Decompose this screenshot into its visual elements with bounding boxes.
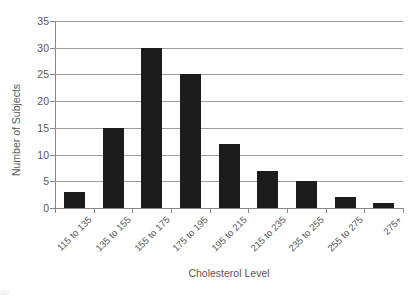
bar bbox=[141, 48, 162, 208]
x-tick bbox=[364, 209, 365, 213]
bar bbox=[180, 74, 201, 208]
bar bbox=[64, 192, 85, 208]
x-axis-line bbox=[55, 208, 404, 209]
x-tick bbox=[171, 209, 172, 213]
y-tick bbox=[50, 21, 55, 22]
y-axis-line bbox=[55, 21, 56, 208]
bar bbox=[103, 128, 124, 208]
y-tick-label: 20 bbox=[19, 95, 49, 107]
y-tick-label: 5 bbox=[19, 175, 49, 187]
y-tick-label: 25 bbox=[19, 68, 49, 80]
x-tick bbox=[132, 209, 133, 213]
y-tick bbox=[50, 101, 55, 102]
bar bbox=[373, 203, 394, 208]
bar bbox=[335, 197, 356, 208]
y-tick-label: 0 bbox=[19, 202, 49, 214]
x-tick bbox=[403, 209, 404, 213]
gridline bbox=[55, 21, 403, 22]
x-tick bbox=[55, 209, 56, 213]
x-tick bbox=[94, 209, 95, 213]
x-tick bbox=[326, 209, 327, 213]
gridline bbox=[55, 101, 403, 102]
y-tick bbox=[50, 74, 55, 75]
x-tick bbox=[210, 209, 211, 213]
gridline bbox=[55, 74, 403, 75]
bar bbox=[257, 171, 278, 208]
bar bbox=[296, 181, 317, 208]
plot-area: 05101520253035 bbox=[55, 21, 403, 208]
y-tick-label: 30 bbox=[19, 42, 49, 54]
bar bbox=[219, 144, 240, 208]
y-tick bbox=[50, 181, 55, 182]
y-tick-label: 35 bbox=[19, 15, 49, 27]
y-tick-label: 15 bbox=[19, 122, 49, 134]
x-tick bbox=[287, 209, 288, 213]
bar-chart: Number of Subjects 05101520253035 Choles… bbox=[0, 0, 416, 296]
y-tick-label: 10 bbox=[19, 149, 49, 161]
gridline bbox=[55, 48, 403, 49]
scan-artifact bbox=[0, 290, 9, 295]
y-tick bbox=[50, 128, 55, 129]
x-tick bbox=[248, 209, 249, 213]
y-tick bbox=[50, 155, 55, 156]
y-tick bbox=[50, 48, 55, 49]
